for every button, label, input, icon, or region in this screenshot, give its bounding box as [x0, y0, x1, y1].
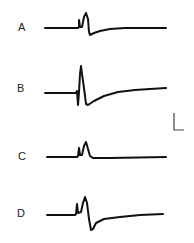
trace-c [47, 142, 166, 158]
waveform-figure: A B C D [0, 0, 194, 243]
trace-a [45, 13, 166, 35]
scale-bar [174, 113, 184, 130]
trace-b [45, 66, 166, 105]
traces-svg [0, 0, 194, 243]
trace-d [47, 197, 163, 230]
